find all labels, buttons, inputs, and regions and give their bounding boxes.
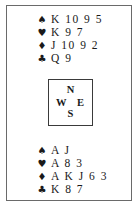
compass-south: S [68,109,74,120]
club-icon: ♣ [37,52,47,65]
south-spades-row: ♠ A J [37,144,108,157]
diamond-icon: ♦ [37,39,47,52]
club-icon: ♣ [37,183,47,196]
north-clubs-row: ♣ Q 9 [37,52,103,65]
north-hearts-row: ♥ K 9 7 [37,26,103,39]
diamond-icon: ♦ [37,170,47,183]
north-spades-row: ♠ K 10 9 5 [37,13,103,26]
south-hearts-row: ♥ A 8 3 [37,157,108,170]
compass-box: N W E S [48,79,93,126]
north-hand: ♠ K 10 9 5 ♥ K 9 7 ♦ J 10 9 2 ♣ Q 9 [37,13,103,65]
north-spades-cards: K 10 9 5 [51,13,103,26]
north-clubs-cards: Q 9 [51,52,72,65]
south-clubs-row: ♣ K 8 7 [37,183,108,196]
south-hearts-cards: A 8 3 [51,157,83,170]
north-diamonds-row: ♦ J 10 9 2 [37,39,103,52]
north-diamonds-cards: J 10 9 2 [51,39,99,52]
heart-icon: ♥ [37,157,47,170]
heart-icon: ♥ [37,26,47,39]
spade-icon: ♠ [37,13,47,26]
compass-east: E [77,97,84,108]
north-hearts-cards: K 9 7 [51,26,84,39]
compass-west: W [56,97,67,108]
south-spades-cards: A J [51,144,71,157]
south-diamonds-cards: A K J 6 3 [51,170,108,183]
south-hand: ♠ A J ♥ A 8 3 ♦ A K J 6 3 ♣ K 8 7 [37,144,108,196]
spade-icon: ♠ [37,144,47,157]
south-clubs-cards: K 8 7 [51,183,84,196]
compass-north: N [67,85,75,96]
south-diamonds-row: ♦ A K J 6 3 [37,170,108,183]
